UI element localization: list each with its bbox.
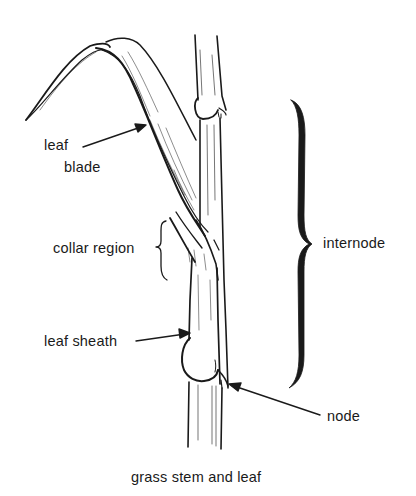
- label-collar-region: collar region: [53, 241, 135, 256]
- grass-stem-diagram: leaf blade collar region leaf sheath int…: [0, 0, 416, 496]
- arrow-node: [229, 383, 320, 415]
- node-drawing: [182, 338, 228, 388]
- arrow-leaf-sheath: [136, 329, 190, 341]
- label-internode: internode: [323, 236, 385, 251]
- label-leaf: leaf: [44, 138, 68, 153]
- upper-stem: [195, 35, 226, 110]
- collar: [170, 212, 219, 280]
- internode-stem: [200, 118, 228, 388]
- label-node: node: [327, 409, 360, 424]
- figure-caption: grass stem and leaf: [131, 470, 261, 485]
- arrow-leaf-blade: [83, 124, 146, 147]
- pointer-arrows: [83, 124, 320, 415]
- collar-brace-icon: [156, 221, 167, 280]
- internode-brace-icon: [289, 100, 312, 388]
- lower-stem: [188, 382, 222, 449]
- upper-node: [195, 98, 226, 119]
- label-leaf-sheath: leaf sheath: [44, 334, 117, 349]
- label-blade: blade: [64, 160, 100, 175]
